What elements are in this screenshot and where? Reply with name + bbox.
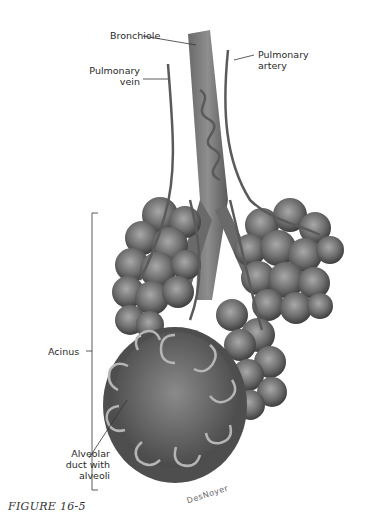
- anatomical-figure: Bronchiole Pulmonary artery Pulmonary ve…: [0, 0, 365, 520]
- label-pulmonary-vein-line1: Pulmonary: [82, 65, 140, 76]
- label-alveolar-duct: Alveolar duct with alveoli: [48, 448, 110, 481]
- label-alveolar-duct-line1: Alveolar: [48, 448, 110, 459]
- right-alveolar-cluster: [234, 198, 344, 324]
- figure-caption: FIGURE 16-5: [8, 500, 86, 513]
- label-pulmonary-vein-line2: vein: [82, 76, 140, 87]
- label-alveolar-duct-line3: alveoli: [48, 470, 110, 481]
- label-acinus: Acinus: [48, 346, 79, 357]
- acinus-illustration: [0, 0, 365, 520]
- label-bronchiole: Bronchiole: [110, 30, 160, 41]
- left-alveolar-cluster: [112, 197, 201, 339]
- label-pulmonary-artery-line1: Pulmonary: [258, 49, 309, 60]
- label-pulmonary-vein: Pulmonary vein: [82, 65, 140, 87]
- label-pulmonary-artery: Pulmonary artery: [258, 49, 309, 71]
- label-pulmonary-artery-line2: artery: [258, 60, 309, 71]
- alveolar-duct-cutaway: [103, 327, 247, 483]
- label-alveolar-duct-line2: duct with: [48, 459, 110, 470]
